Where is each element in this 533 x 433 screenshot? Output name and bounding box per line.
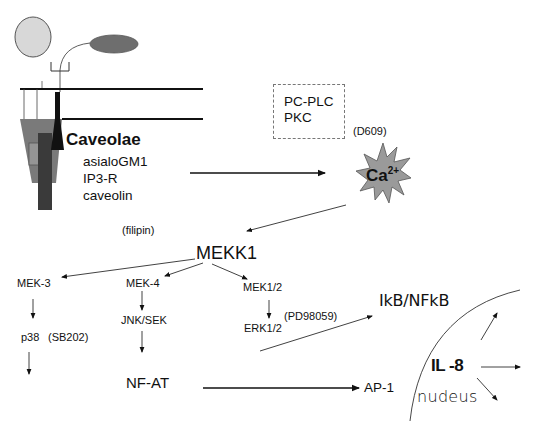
- calcium-charge: 2+: [388, 165, 399, 176]
- ligand-dark-oval: [90, 35, 138, 53]
- pd98059-inhibitor-label: (PD98059): [284, 311, 337, 322]
- caveola-dark-bar: [38, 133, 52, 210]
- pcplc-label: PC-PLC: [284, 95, 334, 109]
- p38-label: p38: [21, 332, 39, 343]
- caveolin-stem: [55, 92, 60, 120]
- filipin-inhibitor-label: (filipin): [122, 225, 154, 236]
- il8-gene-label: IL -8: [431, 357, 463, 374]
- arrow-il8-down: [477, 378, 497, 400]
- arrow-ca-to-mekk1: [247, 205, 346, 231]
- ip3r-label: IP3-R: [83, 172, 118, 186]
- calcium-base: Ca: [366, 166, 388, 185]
- caveolin-label: caveolin: [83, 189, 133, 203]
- ligand-tether-curve: [60, 43, 90, 70]
- asialogm1-label: asialoGM1: [83, 155, 148, 169]
- mekk1-label: MEKK1: [196, 244, 257, 262]
- mek12-label: MEK1/2: [243, 282, 282, 293]
- sb202-inhibitor-label: (SB202): [48, 332, 88, 343]
- ikb-nfkb-label: IkB/NFkB: [379, 293, 449, 309]
- mek4-label: MEK-4: [126, 278, 160, 289]
- mek3-label: MEK-3: [17, 278, 51, 289]
- arrow-mekk1-to-mek4: [165, 263, 203, 276]
- d609-inhibitor-label: (D609): [353, 126, 387, 137]
- arrow-mekk1-to-mek3: [62, 259, 195, 277]
- nfat-label: NF-AT: [126, 375, 169, 390]
- pkc-label: PKC: [284, 111, 312, 125]
- erk12-label: ERK1/2: [244, 323, 282, 334]
- ligand-light-oval: [15, 17, 51, 57]
- caveolae-label: Caveolae: [66, 131, 141, 148]
- ap1-label: AP-1: [364, 381, 394, 395]
- calcium-label: Ca2+: [366, 166, 399, 184]
- arrow-il8-up: [481, 313, 497, 340]
- jnk-sek-label: JNK/SEK: [121, 315, 167, 326]
- arrow-mekk1-to-mek12: [212, 264, 247, 279]
- nucleus-label: nudeus: [417, 389, 478, 405]
